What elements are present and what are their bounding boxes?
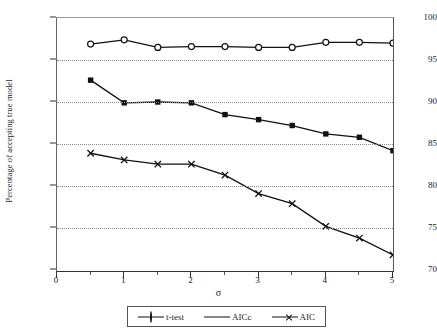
data-point-open-circle-icon	[390, 40, 393, 46]
data-point-open-circle-icon	[256, 44, 262, 50]
x-axis-tick-label: 5	[380, 275, 404, 285]
legend-label: AIC	[300, 312, 316, 322]
gridline	[57, 228, 393, 229]
data-point-open-circle-icon	[121, 37, 127, 43]
x-axis-minor-tick-mark	[90, 272, 91, 275]
y-axis-tick-label: 100	[413, 12, 437, 22]
x-axis-tick-label: 4	[313, 275, 337, 285]
data-point-filled-square-icon	[290, 123, 295, 128]
series-aicc	[88, 77, 393, 153]
gridline	[57, 102, 393, 103]
x-axis-tick-label: 0	[44, 275, 68, 285]
data-point-open-circle-icon	[289, 44, 295, 50]
legend-marker-open-circle-icon	[138, 312, 164, 322]
legend-item-aicc: AICc	[204, 312, 252, 322]
x-axis-minor-tick-mark	[291, 272, 292, 275]
gridline	[57, 186, 393, 187]
plot-area	[56, 17, 394, 272]
x-axis-minor-tick-mark	[358, 272, 359, 275]
y-axis-tick-label: 90	[413, 96, 437, 106]
x-axis-tick-label: 2	[178, 275, 202, 285]
legend-label: t-test	[166, 312, 184, 322]
chart-figure: Percentage of accepting true model 70758…	[0, 0, 437, 336]
data-point-filled-square-icon	[88, 77, 93, 82]
y-axis-tick-label: 75	[413, 222, 437, 232]
series-line	[91, 40, 393, 48]
data-point-open-circle-icon	[356, 39, 362, 45]
data-point-open-circle-icon	[155, 44, 161, 50]
x-axis-minor-tick-mark	[224, 272, 225, 275]
data-point-open-circle-icon	[222, 44, 228, 50]
legend-item-t-test: t-test	[138, 312, 184, 322]
data-point-open-circle-icon	[88, 41, 94, 47]
series-line	[91, 80, 393, 151]
y-axis-tick-label: 70	[413, 264, 437, 274]
y-axis-tick-label: 85	[413, 138, 437, 148]
y-axis-tick-label: 95	[413, 54, 437, 64]
series-line	[91, 153, 393, 255]
data-point-filled-square-icon	[222, 112, 227, 117]
legend-label: AICc	[232, 312, 252, 322]
data-point-open-circle-icon	[188, 44, 194, 50]
data-point-open-circle-icon	[323, 39, 329, 45]
data-point-filled-square-icon	[390, 148, 393, 153]
x-axis-title: σ	[0, 287, 437, 298]
chart-legend: t-test AICc AIC	[127, 306, 326, 327]
y-axis-title: Percentage of accepting true model	[0, 0, 18, 282]
series-t-test	[88, 37, 393, 51]
gridline	[57, 144, 393, 145]
plot-inner	[57, 18, 393, 271]
legend-item-aic: AIC	[272, 312, 316, 322]
data-point-filled-square-icon	[357, 135, 362, 140]
x-axis-tick-label: 3	[246, 275, 270, 285]
gridline	[57, 60, 393, 61]
data-point-filled-square-icon	[323, 131, 328, 136]
data-point-filled-square-icon	[256, 117, 261, 122]
legend-marker-x-cross-icon	[272, 312, 298, 322]
y-axis-tick-label: 80	[413, 180, 437, 190]
legend-marker-filled-square-icon	[204, 312, 230, 322]
x-axis-tick-label: 1	[111, 275, 135, 285]
x-axis-minor-tick-mark	[157, 272, 158, 275]
series-aic	[87, 150, 393, 258]
x-axis-title-text: σ	[216, 287, 221, 298]
y-axis-title-text: Percentage of accepting true model	[4, 79, 14, 202]
